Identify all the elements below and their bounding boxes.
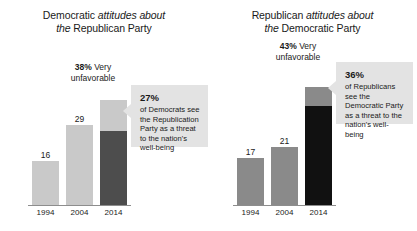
year-label-2004: 2004 <box>269 208 300 218</box>
year-label-2014: 2014 <box>303 208 334 218</box>
chart-panel-republican-views: Republican attitudes about the Democrati… <box>208 0 417 231</box>
peak-label-pct: 38% <box>75 62 92 72</box>
bar-2014-segment-threat <box>100 131 127 205</box>
bar-value-2004: 29 <box>66 114 93 124</box>
bar-value-1994: 17 <box>237 147 264 157</box>
year-label-2004: 2004 <box>64 208 95 218</box>
plot-area-republican-views: 43% Very unfavorable 17 21 1994 2004 201… <box>208 0 417 231</box>
callout-pointer <box>328 81 336 95</box>
bar-2004 <box>271 147 298 205</box>
callout-pct: 27% <box>140 92 201 104</box>
bar-value-2004: 21 <box>271 136 298 146</box>
chart-panel-democratic-views: Democratic attitudes about the Republica… <box>0 0 208 231</box>
callout-body: of Republicans see the Democratic Party … <box>345 82 406 140</box>
peak-label-republican-views: 43% Very unfavorable <box>252 41 344 62</box>
bar-value-1994: 16 <box>32 150 59 160</box>
peak-label-line2: unfavorable <box>276 52 320 62</box>
peak-label-pct: 43% <box>280 41 297 51</box>
axis-baseline <box>28 205 131 206</box>
year-label-2014: 2014 <box>98 208 129 218</box>
year-label-1994: 1994 <box>30 208 61 218</box>
bar-2004 <box>66 125 93 205</box>
callout-republican-views: 36% of Republicans see the Democratic Pa… <box>336 62 413 124</box>
bar-2014 <box>305 87 332 205</box>
callout-pointer <box>123 104 131 118</box>
callout-pct: 36% <box>345 69 406 81</box>
plot-area-democratic-views: 38% Very unfavorable 16 29 1994 2004 201… <box>0 0 208 231</box>
axis-baseline <box>233 205 336 206</box>
year-label-1994: 1994 <box>235 208 266 218</box>
callout-body: of Democrats see the Republication Party… <box>140 105 201 153</box>
bar-2014-segment-threat <box>305 106 332 205</box>
bar-1994 <box>237 158 264 205</box>
callout-democratic-views: 27% of Democrats see the Republication P… <box>131 85 208 147</box>
peak-label-text: Very <box>297 41 316 51</box>
bar-1994 <box>32 161 59 205</box>
peak-label-democratic-views: 38% Very unfavorable <box>47 62 139 83</box>
peak-label-text: Very <box>92 62 111 72</box>
peak-label-line2: unfavorable <box>71 73 115 83</box>
